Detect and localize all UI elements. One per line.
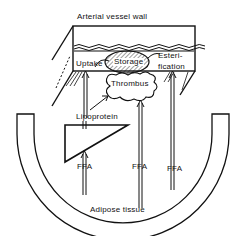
label-uptake: Uptake	[76, 60, 103, 68]
adipose-tissue-band	[17, 114, 229, 236]
label-ffa-right: FFA	[167, 165, 182, 173]
diagram-drawing	[0, 0, 246, 236]
lipoprotein-triangle	[65, 121, 128, 162]
label-lipoprotein: Lipoprotein	[76, 113, 118, 121]
diagram-canvas: Arterial vessel wall Uptake Storage Este…	[0, 0, 246, 236]
label-adipose-tissue: Adipose tissue	[90, 206, 145, 214]
label-ffa-middle: FFA	[132, 163, 147, 171]
label-ffa-left: FFA	[77, 163, 92, 171]
label-esterification-2: fication	[158, 63, 185, 71]
title-arterial-vessel-wall: Arterial vessel wall	[77, 13, 147, 21]
label-storage: Storage	[113, 58, 144, 66]
label-esterification-1: Esteri-	[158, 52, 183, 60]
label-thrombus: Thrombus	[111, 80, 149, 88]
